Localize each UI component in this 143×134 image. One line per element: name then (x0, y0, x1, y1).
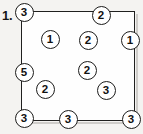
circle-token: 3 (15, 3, 34, 22)
circle-token: 3 (59, 110, 78, 129)
circle-token: 3 (122, 110, 141, 129)
worksheet-figure: 1. 321215223333 (0, 0, 143, 134)
circle-token: 3 (15, 109, 34, 128)
circle-token: 2 (36, 80, 55, 99)
box-shadow-right (136, 14, 138, 124)
box-shadow-bottom (24, 122, 138, 124)
circle-token: 2 (78, 61, 97, 80)
circle-token: 1 (41, 30, 60, 49)
circle-token: 2 (92, 6, 111, 25)
circle-token: 3 (97, 81, 116, 100)
circle-token: 2 (79, 31, 98, 50)
problem-number-label: 1. (2, 9, 12, 22)
circle-token: 1 (121, 31, 140, 50)
circle-token: 5 (15, 63, 34, 82)
